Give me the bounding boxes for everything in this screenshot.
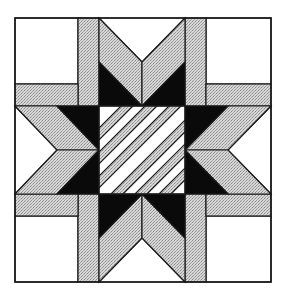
corner-square-bottom-right	[206, 216, 271, 282]
corner-square-top-right	[206, 18, 271, 84]
quilt-block-svg	[0, 0, 286, 295]
corner-square-top-left	[15, 18, 78, 84]
corner-square-bottom-left	[15, 216, 78, 282]
center-striped-square	[99, 106, 185, 194]
star-point-bottom	[99, 194, 185, 282]
star-point-right	[185, 106, 271, 194]
star-point-top	[99, 18, 185, 106]
star-point-left	[15, 106, 99, 194]
quilt-block-figure	[0, 0, 286, 295]
